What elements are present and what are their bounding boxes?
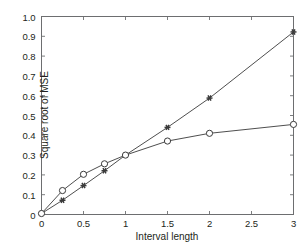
y-axis-label: Square root of MSE <box>39 71 50 159</box>
data-series-markers <box>38 29 296 216</box>
y-tick-label: 0.7 <box>0 70 36 81</box>
chart-figure: Square root of MSE Interval length 00.10… <box>0 0 307 249</box>
x-tick-label: 1.5 <box>161 218 174 229</box>
plot-frame <box>42 17 294 215</box>
y-tick-label: 0.9 <box>0 31 36 42</box>
y-tick-label: 0.3 <box>0 150 36 161</box>
data-series-lines <box>42 32 294 214</box>
axis-ticks <box>42 17 294 215</box>
x-tick-label: 0.5 <box>77 218 90 229</box>
y-tick-label: 0.4 <box>0 130 36 141</box>
y-tick-label: 0 <box>0 209 36 220</box>
y-tick-label: 1.0 <box>0 11 36 22</box>
x-tick-label: 2.5 <box>245 218 258 229</box>
y-tick-label: 0.8 <box>0 51 36 62</box>
x-tick-label: 0 <box>39 218 44 229</box>
x-axis-label: Interval length <box>136 231 199 242</box>
y-tick-label: 0.1 <box>0 189 36 200</box>
x-tick-label: 3 <box>291 218 296 229</box>
y-tick-label: 0.2 <box>0 169 36 180</box>
x-tick-label: 1 <box>123 218 128 229</box>
y-tick-label: 0.6 <box>0 90 36 101</box>
y-tick-label: 0.5 <box>0 110 36 121</box>
x-tick-label: 2 <box>207 218 212 229</box>
